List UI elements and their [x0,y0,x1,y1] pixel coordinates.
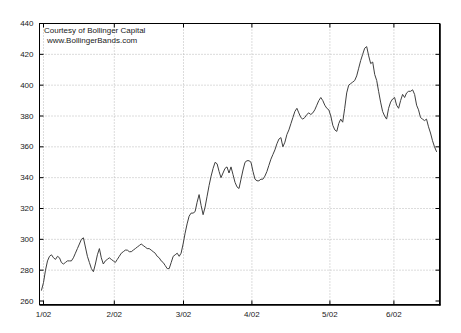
legend-line-2: www.BollingerBands.com [47,36,145,46]
axis-frame [40,24,441,306]
x-axis-label: 1/02 [36,310,52,319]
legend-credit: Courtesy of Bollinger Capital www.Bollin… [44,26,145,45]
y-axis-label: 300 [20,235,34,244]
y-axis-label: 380 [20,112,34,121]
chart-figure: 2602803003203403603804004204401/022/023/… [0,0,461,333]
x-axis-label: 6/02 [386,310,402,319]
y-axis-label: 360 [20,142,34,151]
y-axis-label: 420 [20,50,34,59]
legend-line-1: Courtesy of Bollinger Capital [44,26,145,36]
gridlines [40,24,440,305]
x-axis-label: 4/02 [244,310,260,319]
tick-marks [40,24,440,305]
y-axis-label: 340 [20,173,34,182]
y-axis-label: 320 [20,204,34,213]
y-axis-label: 400 [20,81,34,90]
plot-border [40,24,440,305]
price-chart: 2602803003203403603804004204401/022/023/… [0,0,461,333]
y-axis-label: 280 [20,266,34,275]
x-axis-label: 5/02 [322,310,338,319]
y-axis-label: 440 [20,19,34,28]
x-axis-label: 2/02 [107,310,123,319]
axis-labels: 2602803003203403603804004204401/022/023/… [20,19,402,319]
price-line [42,47,437,291]
y-axis-label: 260 [20,297,34,306]
x-axis-label: 3/02 [176,310,192,319]
